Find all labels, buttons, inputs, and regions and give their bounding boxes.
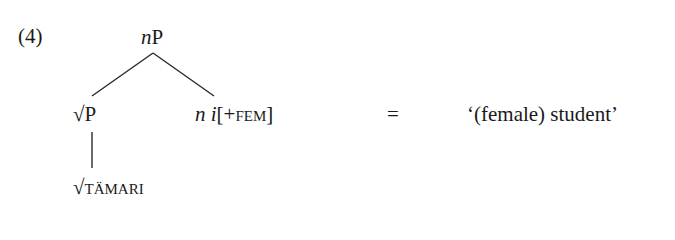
tree-node-nP: nP: [141, 27, 163, 48]
feature-close: ]: [266, 102, 273, 126]
feature-open: [+: [217, 102, 236, 126]
node-label-italic: n: [141, 25, 152, 49]
tree-node-n-head: n i[+FEM]: [195, 104, 273, 125]
tree-node-root-leaf: √TÄMARI: [73, 177, 144, 198]
head-label: n: [195, 102, 206, 126]
equals-sign: =: [387, 104, 399, 125]
feature-label: FEM: [235, 102, 266, 126]
gloss-text: ‘(female) student’: [467, 104, 618, 125]
root-symbol: √: [73, 175, 85, 199]
edge-root-to-left: [92, 53, 153, 96]
tree-node-root-phrase: √P: [73, 104, 96, 125]
root-label: TÄMARI: [85, 175, 144, 199]
node-label: P: [152, 25, 164, 49]
edge-root-to-right: [153, 53, 214, 96]
